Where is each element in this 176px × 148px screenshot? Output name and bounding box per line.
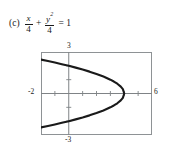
x-axis-max-label: 6 [154, 88, 158, 96]
graph-figure: 3 -3 -2 6 [41, 52, 152, 135]
fraction-y-squared-over-4: y2 4 [45, 13, 54, 35]
fraction-numerator: x [26, 14, 32, 24]
exponent-2: 2 [50, 11, 53, 17]
plus-operator: + [36, 19, 41, 29]
equals-sign: = [58, 19, 63, 29]
x-axis-min-label: -2 [28, 88, 34, 96]
right-hand-side: 1 [66, 19, 71, 29]
y-axis-max-label: 3 [67, 42, 71, 50]
equation-expression: (c) x 4 + y2 4 = 1 [9, 13, 71, 35]
parabola-plot [41, 52, 152, 135]
part-label: (c) [9, 19, 20, 29]
y-axis-min-label: -3 [65, 136, 71, 144]
fraction-denominator: 4 [25, 25, 32, 35]
fraction-denominator: 4 [46, 26, 53, 36]
fraction-numerator: y2 [45, 13, 54, 25]
fraction-x-over-4: x 4 [25, 14, 33, 34]
